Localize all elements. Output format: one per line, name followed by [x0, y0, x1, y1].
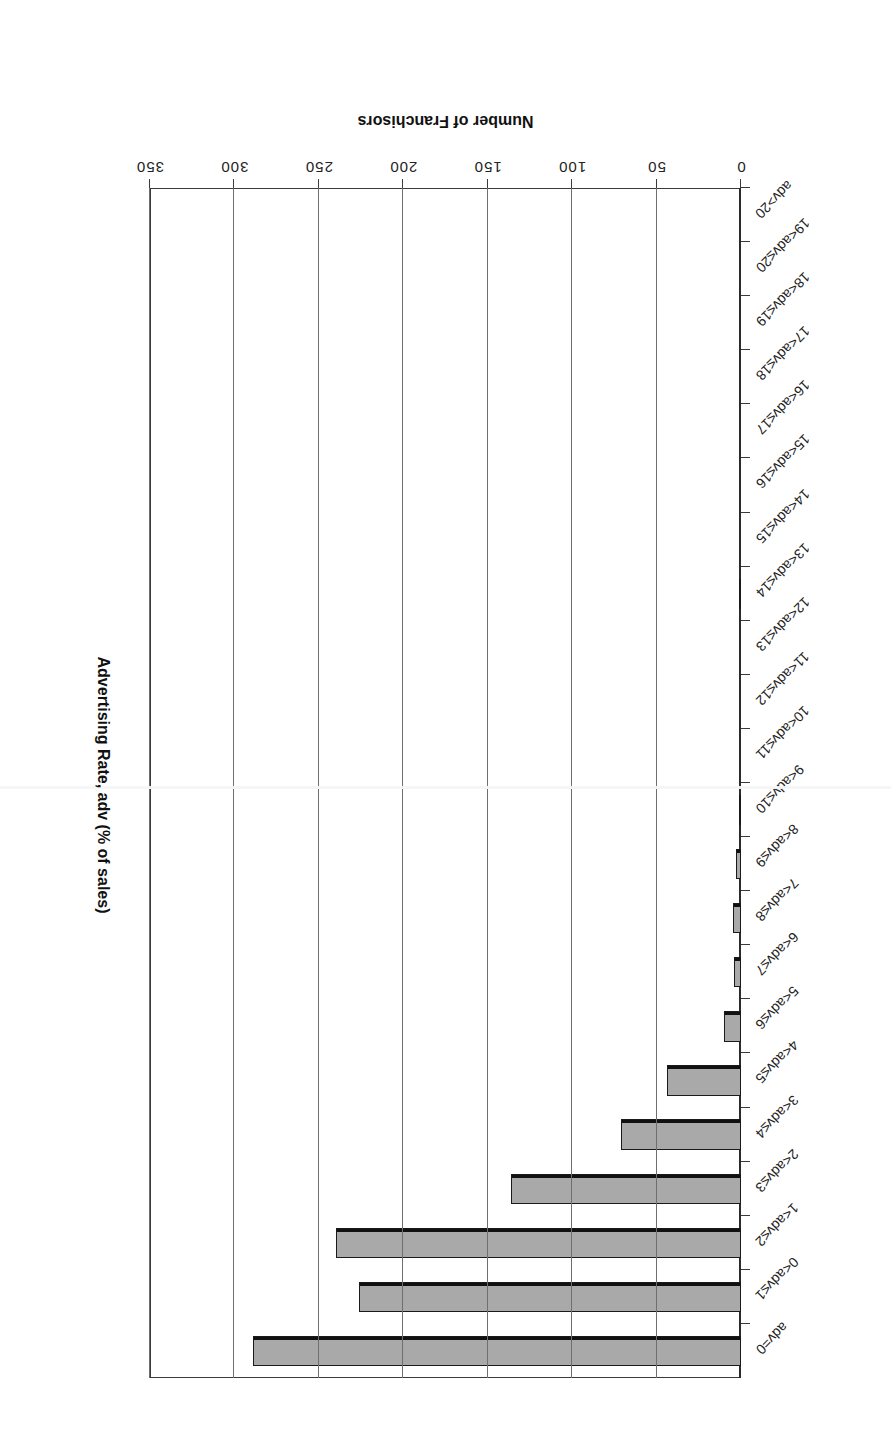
- bar: [336, 1228, 741, 1258]
- bar-row: [150, 200, 741, 230]
- category-label: 5<adv≤6: [752, 984, 802, 1034]
- value-tick-100: [571, 179, 572, 188]
- bar-row: [150, 1336, 741, 1366]
- bar: [667, 1065, 741, 1095]
- bar-row: [150, 795, 741, 825]
- category-tick: [741, 1269, 750, 1270]
- bar-row: [150, 957, 741, 987]
- bar-row: [150, 903, 741, 933]
- value-axis-title: Number of Franchisors: [0, 112, 891, 130]
- category-tick: [741, 836, 750, 837]
- value-tick-150: [487, 179, 488, 188]
- bar: [253, 1336, 741, 1366]
- bar-row: [150, 362, 741, 392]
- category-tick: [741, 349, 750, 350]
- category-tick: [741, 566, 750, 567]
- category-label: 19<adv≤20: [752, 215, 813, 276]
- bar-row: [150, 524, 741, 554]
- category-tick: [741, 457, 750, 458]
- bar: [739, 795, 741, 825]
- category-tick: [741, 890, 750, 891]
- bar-row: [150, 308, 741, 338]
- bar-row: [150, 633, 741, 663]
- bar-row: [150, 579, 741, 609]
- bar-row: [150, 1065, 741, 1095]
- category-tick: [741, 620, 750, 621]
- category-tick: [741, 1107, 750, 1108]
- bar: [736, 849, 741, 879]
- bar-row: [150, 1228, 741, 1258]
- gridline-100: [571, 188, 572, 1378]
- category-tick: [741, 295, 750, 296]
- category-tick: [741, 241, 750, 242]
- bar-row: [150, 1119, 741, 1149]
- category-label: 18<adv≤19: [752, 269, 813, 330]
- gridline-150: [487, 188, 488, 1378]
- value-tick-label-50: 50: [627, 159, 687, 176]
- value-tick-label-300: 300: [204, 159, 264, 176]
- value-tick-label-150: 150: [458, 159, 518, 176]
- rotated-figure-content: 050100150200250300350 adv=00<adv≤11<adv≤…: [0, 0, 891, 1430]
- value-tick-label-100: 100: [542, 159, 602, 176]
- gridline-50: [656, 188, 657, 1378]
- category-label: 12<adv≤13: [752, 594, 813, 655]
- category-label: 1<adv≤2: [752, 1200, 802, 1250]
- gridline-200: [402, 188, 403, 1378]
- bar-row: [150, 741, 741, 771]
- category-label: 14<adv≤15: [752, 486, 813, 547]
- category-label: 15<adv≤16: [752, 432, 813, 493]
- bar: [621, 1119, 741, 1149]
- category-label: 8<adv≤9: [752, 821, 802, 871]
- category-label: 11<adv≤12: [752, 649, 812, 709]
- category-tick: [741, 998, 750, 999]
- value-tick-300: [233, 179, 234, 188]
- bar: [739, 579, 741, 609]
- category-axis-title-wrap: Advertising Rate, adv (% of sales): [88, 140, 118, 1430]
- category-label: 2<adv≤3: [752, 1146, 802, 1196]
- category-tick: [741, 1323, 750, 1324]
- value-tick-250: [318, 179, 319, 188]
- category-label: adv=0: [752, 1319, 791, 1358]
- bar-row: [150, 1174, 741, 1204]
- category-tick: [741, 512, 750, 513]
- category-tick: [741, 674, 750, 675]
- category-tick: [741, 1215, 750, 1216]
- category-label: adv>20: [752, 178, 796, 222]
- bar-row: [150, 687, 741, 717]
- category-tick: [741, 728, 750, 729]
- category-tick: [741, 403, 750, 404]
- value-tick-label-350: 350: [120, 159, 180, 176]
- category-axis-title: Advertising Rate, adv (% of sales): [94, 657, 112, 914]
- value-tick-50: [656, 179, 657, 188]
- gridline-300: [233, 188, 234, 1378]
- category-label: 13<adv≤14: [752, 540, 813, 601]
- category-label: 7<adv≤8: [752, 875, 802, 925]
- category-label: 16<adv≤17: [752, 378, 813, 439]
- category-tick: [741, 944, 750, 945]
- value-tick-200: [402, 179, 403, 188]
- bar: [359, 1282, 741, 1312]
- bar: [724, 1011, 741, 1041]
- category-label: 3<adv≤4: [752, 1092, 802, 1142]
- value-tick-label-250: 250: [289, 159, 349, 176]
- bar-row: [150, 1282, 741, 1312]
- bar: [734, 957, 741, 987]
- bar: [733, 903, 741, 933]
- value-tick-350: [149, 179, 150, 188]
- bar-row: [150, 416, 741, 446]
- category-tick: [741, 1052, 750, 1053]
- value-tick-label-200: 200: [373, 159, 433, 176]
- bar: [511, 1174, 741, 1204]
- category-label: 10<adv≤11: [752, 703, 812, 763]
- bar-row: [150, 849, 741, 879]
- value-tick-label-0: 0: [711, 159, 771, 176]
- category-label: 9<adv≤10: [752, 762, 807, 817]
- bar-row: [150, 254, 741, 284]
- category-label: 0<adv≤1: [752, 1254, 802, 1304]
- category-tick: [741, 187, 750, 188]
- scan-seam: [0, 786, 891, 789]
- gridline-350: [149, 188, 150, 1378]
- bar-row: [150, 1011, 741, 1041]
- gridline-250: [318, 188, 319, 1378]
- bar-row: [150, 470, 741, 500]
